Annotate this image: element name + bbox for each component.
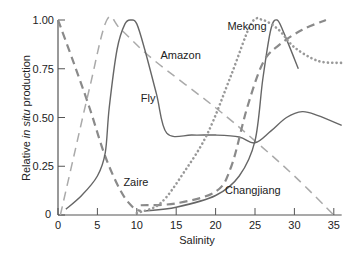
y-tick-label: 0.75 xyxy=(33,63,54,75)
x-tick-label: 20 xyxy=(209,219,221,231)
y-tick-label: 0.50 xyxy=(33,112,54,124)
x-axis-label: Salinity xyxy=(179,234,215,246)
x-tick-label: 10 xyxy=(131,219,143,231)
y-tick-label: 1.00 xyxy=(33,14,54,26)
annotations: MekongAmazonFlyZaireChangjiang xyxy=(123,20,280,196)
label-zaire: Zaire xyxy=(123,176,148,188)
series-group xyxy=(58,16,342,215)
x-tick-label: 30 xyxy=(288,219,300,231)
y-tick-label: 0.25 xyxy=(33,160,54,172)
label-fly: Fly xyxy=(141,92,156,104)
x-tick-label: 0 xyxy=(55,219,61,231)
x-tick-label: 25 xyxy=(249,219,261,231)
x-tick-label: 15 xyxy=(170,219,182,231)
label-amazon: Amazon xyxy=(160,49,200,61)
chart-svg: 0510152025303500.250.500.751.00 MekongAm… xyxy=(0,0,359,256)
label-mekong: Mekong xyxy=(227,20,266,32)
y-axis-label: Relative in situ production xyxy=(20,55,32,181)
label-changjiang: Changjiang xyxy=(225,184,281,196)
chart: 0510152025303500.250.500.751.00 MekongAm… xyxy=(0,0,359,256)
x-tick-label: 5 xyxy=(94,219,100,231)
y-tick-label: 0 xyxy=(45,208,51,220)
x-tick-label: 35 xyxy=(328,219,340,231)
